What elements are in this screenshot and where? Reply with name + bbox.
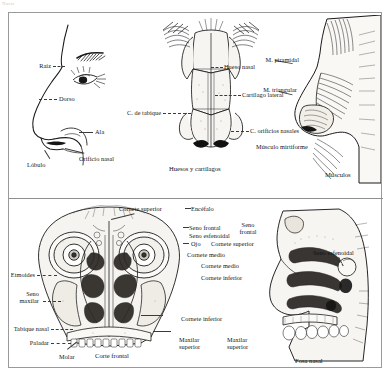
leader-cornete-inferior-c (141, 315, 163, 316)
sagittal-section-illustration (255, 205, 377, 365)
leader-cartilago-lateral (215, 95, 241, 96)
leader-c-tabique (163, 113, 191, 114)
row-divider (9, 198, 383, 199)
label-cornete-medio-2: Cornete medio (201, 262, 239, 269)
label-molar: Molar (59, 353, 75, 360)
leader-raiz (53, 66, 65, 67)
label-ala: Ala (95, 128, 104, 135)
leader-seno-maxilar (43, 301, 61, 302)
leader-seno-frontal-c (183, 227, 189, 228)
leader-tabique-nasal (51, 329, 73, 330)
leader-hueso-nasal (211, 67, 223, 68)
label-encefalo: Encéfalo (191, 205, 214, 212)
label-maxilar-superior: Maxilarsuperior (179, 336, 219, 350)
label-m-triangular: M. triangular (227, 86, 297, 93)
page-header-fragment: Nariz (2, 0, 42, 8)
figure-lateral-profile: Raíz Dorso Ala Lóbulo Orificio nasal (21, 19, 151, 184)
label-ojo: Ojo (191, 240, 201, 247)
figure-sagittal-section: Senofrontal Seno esfenoidal Fosa nasal (255, 205, 377, 365)
leader-c-orificios (231, 131, 249, 132)
label-dorso: Dorso (59, 95, 75, 102)
label-m-piramidal: M. piramidal (229, 56, 299, 63)
label-c-tabique: C. de tabique (105, 109, 161, 116)
label-tabique-nasal: Tabique nasal (0, 325, 49, 332)
label-seno-frontal: Seno frontal (189, 224, 221, 231)
label-orificio-nasal: Orificio nasal (79, 155, 114, 162)
figure-coronal-section: Cornete superior Etmoides Senomaxilar Ta… (33, 205, 185, 365)
label-cornete-superior: Cornete superior (119, 205, 162, 212)
coronal-section-illustration (33, 205, 185, 365)
anatomical-plate-frame: Raíz Dorso Ala Lóbulo Orificio nasal (8, 12, 382, 368)
bones-cartilages-illustration (159, 17, 263, 185)
caption-huesos-y-cartilagos: Huesos y cartílagos (169, 165, 221, 172)
label-seno-esfenoidal: Seno esfenoidal (189, 232, 230, 239)
figure-bones-cartilages: Hueso nasal C. de tabique Cartílago late… (159, 17, 263, 185)
label-cornete-medio: Cornete medio (187, 251, 225, 258)
label-seno-esfenoidal-sag: Seno esfenoidal (313, 249, 354, 256)
leader-paladar (51, 343, 71, 344)
leader-ojo (183, 243, 189, 244)
muscles-illustration (287, 15, 381, 185)
label-seno-frontal-sag: Senofrontal (231, 221, 265, 235)
leader-ala (79, 132, 93, 133)
label-etmoides: Etmoides (0, 271, 35, 278)
leader-etmoides (37, 275, 57, 276)
caption-corte-frontal: Corte frontal (95, 352, 129, 359)
label-seno-maxilar: Senomaxilar (0, 290, 39, 304)
leader-dorso (39, 99, 57, 100)
leader-maxilar-superior-c (153, 331, 171, 332)
label-lobulo: Lóbulo (27, 161, 46, 168)
label-cornete-superior-2: Cornete superior (211, 240, 254, 247)
label-paladar: Paladar (7, 339, 49, 346)
figure-muscles: M. piramidal M. triangular Músculos (287, 15, 381, 185)
leader-encefalo (185, 208, 191, 209)
caption-musculos: Músculos (325, 171, 351, 178)
caption-fosa-nasal: Fosa nasal (295, 357, 323, 364)
label-hueso-nasal: Hueso nasal (224, 63, 255, 70)
label-cornete-inferior: Cornete inferior (181, 315, 222, 322)
label-cornete-inferior-2: Cornete inferior (201, 274, 242, 281)
label-raiz: Raíz (17, 62, 51, 69)
